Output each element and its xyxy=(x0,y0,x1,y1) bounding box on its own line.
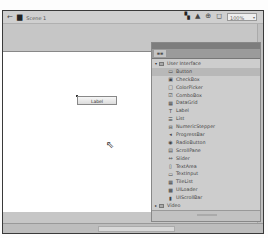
label-icon: T xyxy=(168,109,173,114)
component-textinput[interactable]: ▭TextInput xyxy=(152,170,260,178)
component-radiobutton[interactable]: ◉RadioButton xyxy=(152,139,260,147)
item-label: CheckBox xyxy=(176,76,200,84)
list-icon: ☰ xyxy=(168,117,173,122)
radiobutton-icon: ◉ xyxy=(168,140,173,145)
group-label: Video xyxy=(167,202,180,210)
zoom-select[interactable]: 100% ▾ xyxy=(227,13,257,21)
drag-cursor-icon: ⇖ xyxy=(106,139,114,150)
components-tab[interactable]: ≡≡ xyxy=(154,50,166,57)
item-label: NumericStepper xyxy=(176,123,215,131)
component-scrollpane[interactable]: ▤ScrollPane xyxy=(152,147,260,155)
textinput-icon: ▭ xyxy=(168,172,173,177)
component-combobox[interactable]: ☑ComboBox xyxy=(152,92,260,100)
chevron-down-icon: ▾ xyxy=(253,14,255,22)
panel-footer xyxy=(152,210,260,221)
colorpicker-icon: □ xyxy=(168,85,173,90)
item-label: Label xyxy=(176,107,189,115)
checkbox-icon: ▣ xyxy=(168,77,173,82)
uiscrollbar-icon: ▮ xyxy=(168,196,173,201)
component-tree: ▾ User Interface ▭Button ▣CheckBox □Colo… xyxy=(152,59,260,210)
component-datagrid[interactable]: ▦DataGrid xyxy=(152,99,260,107)
component-textarea[interactable]: ▯TextArea xyxy=(152,163,260,171)
component-label[interactable]: TLabel xyxy=(152,107,260,115)
edit-scene-icon[interactable]: ▲ xyxy=(195,12,200,21)
scrollbar-thumb[interactable] xyxy=(98,226,175,232)
group-label: User Interface xyxy=(167,60,201,68)
progressbar-icon: ◂ xyxy=(168,132,173,137)
horizontal-scrollbar[interactable] xyxy=(3,223,263,233)
component-list[interactable]: ☰List xyxy=(152,115,260,123)
button-icon: ▭ xyxy=(168,69,173,74)
item-label: List xyxy=(176,115,184,123)
label-component-instance[interactable]: Label xyxy=(77,96,117,105)
item-label: ColorPicker xyxy=(176,84,203,92)
datagrid-icon: ▦ xyxy=(168,101,173,106)
textarea-icon: ▯ xyxy=(168,164,173,169)
folder-icon xyxy=(159,62,164,66)
back-arrow-icon[interactable]: ← xyxy=(7,13,13,22)
item-label: Button xyxy=(176,68,192,76)
component-checkbox[interactable]: ▣CheckBox xyxy=(152,76,260,84)
item-label: DataGrid xyxy=(176,99,198,107)
item-label: ScrollPane xyxy=(176,147,201,155)
uiloader-icon: ▩ xyxy=(168,188,173,193)
component-uiscrollbar[interactable]: ▮UIScrollBar xyxy=(152,194,260,202)
item-label: ProgressBar xyxy=(176,131,205,139)
edit-symbols-icon[interactable]: ▚ xyxy=(185,12,190,21)
item-label: TextArea xyxy=(176,163,197,171)
component-uiloader[interactable]: ▩UILoader xyxy=(152,186,260,194)
rotate-icon[interactable]: ⊕ xyxy=(205,12,211,21)
tilelist-icon: ▦ xyxy=(168,180,173,185)
numericstepper-icon: ⊟ xyxy=(168,125,173,130)
edit-bar: ← ▆ Scene 1 ▚ ▲ ⊕ ◻ 100% ▾ xyxy=(3,11,263,24)
resize-grip[interactable] xyxy=(197,214,217,216)
scene-icon: ▆ xyxy=(17,13,22,22)
item-label: UILoader xyxy=(176,186,197,194)
combobox-icon: ☑ xyxy=(168,93,173,98)
scene-label[interactable]: Scene 1 xyxy=(26,15,46,21)
components-panel: ≡≡ ▾ User Interface ▭Button ▣CheckBox □C… xyxy=(151,42,261,222)
component-colorpicker[interactable]: □ColorPicker xyxy=(152,84,260,92)
item-label: ComboBox xyxy=(176,92,202,100)
scrollpane-icon: ▤ xyxy=(168,148,173,153)
item-label: UIScrollBar xyxy=(176,194,202,202)
slider-icon: ⇔ xyxy=(168,156,173,161)
folder-icon xyxy=(159,204,164,208)
component-numericstepper[interactable]: ⊟NumericStepper xyxy=(152,123,260,131)
panel-tabbar: ≡≡ xyxy=(152,49,260,59)
component-button[interactable]: ▭Button xyxy=(152,68,260,76)
zoom-value: 100% xyxy=(230,15,244,21)
item-label: TileList xyxy=(176,178,193,186)
component-tilelist[interactable]: ▦TileList xyxy=(152,178,260,186)
clip-icon[interactable]: ◻ xyxy=(216,12,222,21)
item-label: RadioButton xyxy=(176,139,206,147)
group-user-interface[interactable]: ▾ User Interface xyxy=(152,60,260,68)
component-slider[interactable]: ⇔Slider xyxy=(152,155,260,163)
item-label: Slider xyxy=(176,155,190,163)
group-video[interactable]: ▸ Video xyxy=(152,202,260,210)
item-label: TextInput xyxy=(176,170,198,178)
component-progressbar[interactable]: ◂ProgressBar xyxy=(152,131,260,139)
stage[interactable] xyxy=(3,51,153,212)
